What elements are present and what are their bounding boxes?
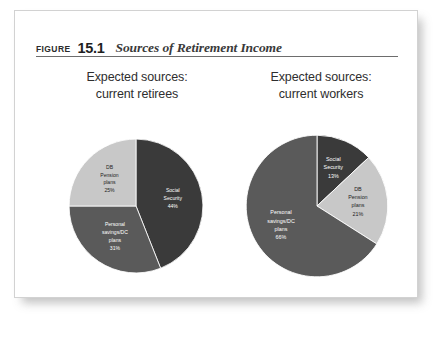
pie-chart-current-retirees-svg: SocialSecurity44%Personalsavings/DCplans… (67, 137, 205, 275)
panel-heading-line2: current retirees (52, 86, 222, 103)
panel-heading-retirees: Expected sources: current retirees (52, 69, 222, 104)
panel-heading-line2: current workers (231, 86, 411, 103)
panel-heading-line1: Expected sources: (231, 69, 411, 86)
chart-panel-current-workers: Expected sources: current workers (231, 69, 411, 104)
figure-number: 15.1 (78, 41, 105, 57)
chart-panel-current-retirees: Expected sources: current retirees (52, 69, 222, 104)
figure-caption: Sources of Retirement Income (112, 41, 282, 57)
pie-chart-current-workers: SocialSecurity13%DBPensionplans21%Person… (244, 133, 390, 279)
panel-heading-workers: Expected sources: current workers (231, 69, 411, 104)
pie-chart-current-workers-svg: SocialSecurity13%DBPensionplans21%Person… (244, 133, 390, 279)
pie-chart-current-retirees: SocialSecurity44%Personalsavings/DCplans… (67, 137, 205, 275)
figure-card: Figure 15.1 Sources of Retirement Income… (14, 10, 418, 298)
figure-title: Figure 15.1 Sources of Retirement Income (36, 35, 398, 57)
panel-heading-line1: Expected sources: (52, 69, 222, 86)
figure-label: Figure (36, 45, 71, 57)
